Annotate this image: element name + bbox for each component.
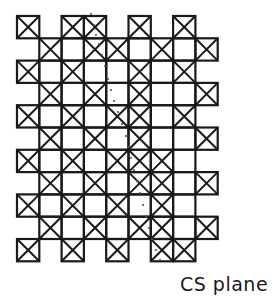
plain-cell [39,105,61,127]
trace-dot [130,157,132,159]
plain-cell [62,217,84,239]
trace-dot [151,238,153,240]
crossed-cell [195,217,217,239]
plain-cell [173,194,195,216]
trace-dot [148,227,150,229]
trace-dot [101,54,103,56]
crossed-cell [17,105,39,127]
trace-dot [159,259,161,261]
crossed-cell [129,105,151,127]
cs-plane-lattice-diagram [0,0,273,299]
plain-cell [173,38,195,60]
trace-dot [125,135,127,137]
crossed-cell [151,239,173,261]
plain-cell [129,38,151,60]
trace-dot [139,192,141,194]
crossed-cell [62,150,84,172]
plain-cell [173,150,195,172]
trace-dot [90,13,92,15]
plain-cell [151,61,173,83]
plain-cell [62,83,84,105]
crossed-cell [151,172,173,194]
crossed-cell [39,83,61,105]
crossed-cell [17,194,39,216]
crossed-cell [84,38,106,60]
crossed-cell [151,217,173,239]
crossed-cell [195,83,217,105]
trace-dot [110,89,112,91]
plain-cell [39,150,61,172]
plain-cell [173,217,195,239]
crossed-cell [84,128,106,150]
plain-cell [39,194,61,216]
trace-dot [142,204,144,206]
trace-dot [95,34,97,36]
crossed-cell [17,150,39,172]
diagram-caption: CS plane [180,273,268,295]
plain-cell [106,83,128,105]
crossed-cell [62,239,84,261]
plain-cell [84,194,106,216]
trace-dot [93,24,95,26]
plain-cell [173,83,195,105]
trace-dot [145,215,147,217]
crossed-cell [106,194,128,216]
plain-cell [106,172,128,194]
crossed-cell [17,61,39,83]
trace-dot [107,78,109,80]
crossed-cell [151,38,173,60]
plain-cell [151,83,173,105]
crossed-cell [129,217,151,239]
trace-dot [121,123,123,125]
crossed-cell [173,239,195,261]
crossed-cell [84,172,106,194]
crossed-cell [17,16,39,38]
crossed-cell [17,239,39,261]
crossed-cell [62,16,84,38]
trace-dot [98,43,100,45]
trace-dot [136,180,138,182]
crossed-cell [129,172,151,194]
crossed-cell [129,150,151,172]
crossed-cell [173,16,195,38]
plain-cell [62,172,84,194]
crossed-cell [151,150,173,172]
crossed-cell [129,16,151,38]
crossed-cell [195,128,217,150]
crossed-cell [129,83,151,105]
trace-dot [113,100,115,102]
crossed-cell [84,83,106,105]
crossed-cell [129,61,151,83]
crossed-cell [106,38,128,60]
crossed-cell [195,38,217,60]
plain-cell [84,150,106,172]
crossed-cell [39,172,61,194]
plain-cell [84,105,106,127]
plain-cell [84,61,106,83]
crossed-cell [173,61,195,83]
trace-dot [104,65,106,67]
plain-cell [106,217,128,239]
plain-cell [106,61,128,83]
trace-dot [133,169,135,171]
lattice-cells [17,16,218,261]
plain-cell [129,194,151,216]
crossed-cell [62,194,84,216]
plain-cell [39,61,61,83]
trace-dot [117,111,119,113]
plain-cell [62,38,84,60]
plain-cell [151,128,173,150]
crossed-cell [39,128,61,150]
trace-dot [155,249,157,251]
crossed-cell [39,38,61,60]
crossed-cell [106,239,128,261]
crossed-cell [39,217,61,239]
crossed-cell [62,61,84,83]
plain-cell [173,128,195,150]
crossed-cell [129,128,151,150]
crossed-cell [173,105,195,127]
crossed-cell [151,194,173,216]
crossed-cell [62,105,84,127]
plain-cell [62,128,84,150]
plain-cell [106,128,128,150]
